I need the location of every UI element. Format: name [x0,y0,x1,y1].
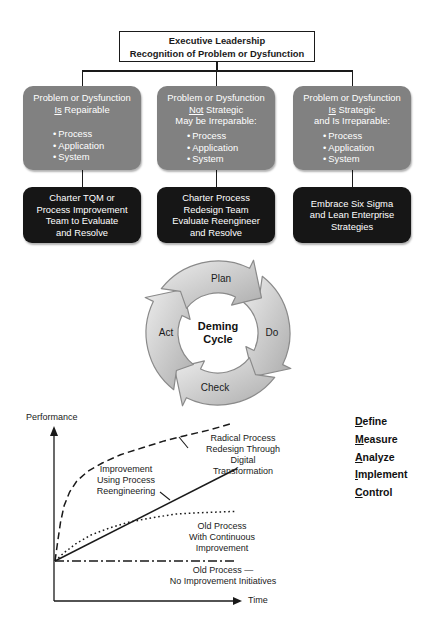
cycle-step-do: Do [266,327,279,338]
series-label-old-continuous: Old Process With Continuous Improvement [168,521,276,554]
dmaic-control: Control [355,484,408,502]
connector-horizontal [82,70,354,72]
y-axis-label: Performance [26,412,78,423]
cycle-step-check: Check [201,382,229,393]
deming-cycle-diagram: Deming Cycle Plan Do Check Act [133,248,303,420]
y-axis-arrow-icon [50,426,58,436]
bullet-item: Process [53,128,111,140]
bullet-item: Application [323,142,381,154]
connector-branch-2-top [216,70,218,87]
bullet-item: System [187,153,245,165]
root-decision-box: Executive Leadership Recognition of Prob… [119,31,315,62]
condition-box-not-strategic: Problem or Dysfunction Not Strategic May… [157,86,275,170]
performance-chart: Performance Time Radical Process Redesig… [0,400,330,638]
bullet-item: Process [323,130,381,142]
bullet-item: Process [187,130,245,142]
x-axis-label: Time [248,595,268,606]
deming-cycle-title: Deming Cycle [198,320,238,346]
condition-box-strategic: Problem or Dysfunction Is Strategic and … [293,86,411,170]
condition-title: Problem or Dysfunction Is Strategic and … [293,92,411,127]
condition-bullets: Process Application System [157,130,275,165]
leader-line-radical [179,437,188,448]
connector-branch-3-bottom [352,169,354,188]
dmaic-implement: Implement [355,466,408,484]
bullet-item: Application [53,140,111,152]
series-label-old-none: Old Process — No Improvement Initiatives [170,565,277,587]
leader-line-reengineering [160,492,170,500]
connector-branch-1-bottom [82,169,84,188]
series-label-reengineering: Improvement Using Process Reengineering [97,464,156,497]
action-box-tqm: Charter TQM or Process Improvement Team … [23,187,141,243]
connector-branch-1-top [82,70,84,87]
condition-box-repairable: Problem or Dysfunction Is Repairable Pro… [23,86,141,170]
cycle-step-act: Act [159,327,173,338]
connector-branch-2-bottom [216,169,218,188]
root-line-2: Recognition of Problem or Dysfunction [120,47,314,60]
dmaic-define: Define [355,413,408,431]
condition-title: Problem or Dysfunction Is Repairable [23,92,141,115]
dmaic-list: Define Measure Analyze Implement Control [355,413,408,502]
condition-title: Problem or Dysfunction Not Strategic May… [157,92,275,127]
bullet-item: System [53,151,111,163]
action-box-six-sigma: Embrace Six Sigma and Lean Enterprise St… [293,187,411,243]
x-axis-arrow-icon [233,597,242,605]
cycle-step-plan: Plan [211,273,231,284]
figure-page: Executive Leadership Recognition of Prob… [0,0,435,638]
series-label-radical: Radical Process Redesign Through Digital… [200,433,287,477]
dmaic-analyze: Analyze [355,449,408,467]
root-line-1: Executive Leadership [120,34,314,47]
connector-branch-3-top [352,70,354,87]
action-box-redesign: Charter Process Redesign Team Evaluate R… [157,187,275,243]
condition-bullets: Process Application System [23,128,141,163]
bullet-item: Application [187,142,245,154]
condition-bullets: Process Application System [293,130,411,165]
dmaic-measure: Measure [355,431,408,449]
bullet-item: System [323,153,381,165]
